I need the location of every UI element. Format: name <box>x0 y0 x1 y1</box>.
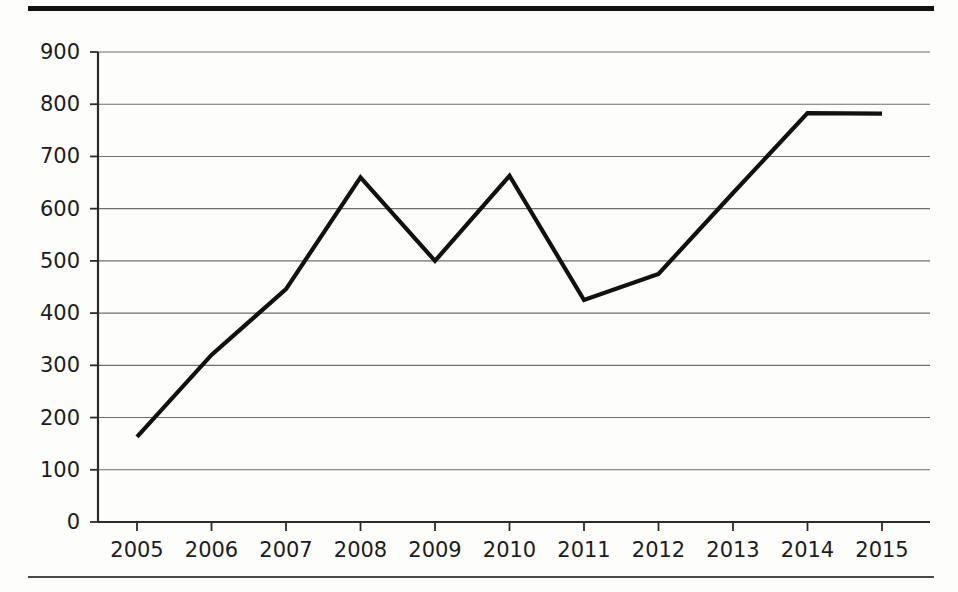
chart-svg-canvas: 0100200300400500600700800900 20052006200… <box>0 0 958 592</box>
x-axis-tick-label: 2009 <box>408 538 461 562</box>
line-chart: 0100200300400500600700800900 20052006200… <box>0 0 958 592</box>
y-axis-tick-label: 800 <box>40 92 80 116</box>
x-axis-tick-label: 2007 <box>259 538 312 562</box>
data-series-line <box>137 113 882 437</box>
gridline-group <box>90 52 930 522</box>
x-axis-tick-label: 2012 <box>632 538 685 562</box>
x-axis-tick-label: 2015 <box>855 538 908 562</box>
x-tick-mark-group <box>137 522 882 531</box>
x-axis-tick-label: 2011 <box>557 538 610 562</box>
y-axis-tick-label: 700 <box>40 144 80 168</box>
x-axis-tick-label: 2008 <box>334 538 387 562</box>
y-axis-tick-label: 0 <box>67 510 80 534</box>
y-axis-tick-label: 100 <box>40 458 80 482</box>
y-axis-tick-label: 200 <box>40 406 80 430</box>
x-axis-tick-label: 2005 <box>110 538 163 562</box>
x-axis-tick-label: 2010 <box>483 538 536 562</box>
x-axis-tick-label: 2013 <box>706 538 759 562</box>
x-axis-tick-label: 2006 <box>185 538 238 562</box>
x-axis-tick-label-group: 2005200620072008200920102011201220132014… <box>110 538 908 562</box>
figure-page: 0100200300400500600700800900 20052006200… <box>0 0 958 592</box>
y-axis-tick-label-group: 0100200300400500600700800900 <box>40 40 80 534</box>
y-axis-tick-label: 400 <box>40 301 80 325</box>
y-axis-tick-label: 500 <box>40 249 80 273</box>
x-axis-tick-label: 2014 <box>781 538 834 562</box>
y-axis-tick-label: 600 <box>40 197 80 221</box>
y-axis-tick-label: 900 <box>40 40 80 64</box>
y-axis-tick-label: 300 <box>40 353 80 377</box>
